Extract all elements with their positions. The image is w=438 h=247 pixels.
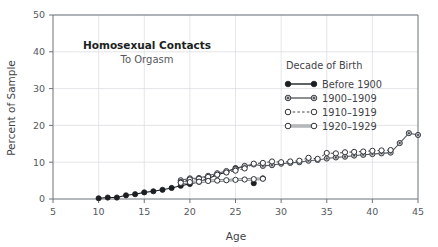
data-point [311, 81, 317, 87]
x-axis-label: Age [226, 230, 246, 242]
scatter-plot: 0102030405051015202530354045 Age Percent… [0, 0, 438, 247]
data-point [324, 150, 329, 155]
data-point [388, 147, 393, 152]
x-tick-label: 25 [229, 206, 241, 217]
data-point [251, 177, 256, 182]
legend-label: 1920–1929 [322, 121, 377, 132]
data-point [285, 123, 291, 129]
y-tick-label: 0 [39, 193, 45, 204]
data-point [114, 195, 119, 200]
data-point [215, 172, 220, 177]
y-tick-label: 50 [33, 9, 45, 20]
data-point [342, 150, 347, 155]
data-point-center [344, 156, 346, 158]
data-point [242, 166, 247, 171]
x-tick-label: 10 [93, 206, 105, 217]
data-point [311, 109, 317, 115]
data-point [187, 179, 192, 184]
data-point-center [417, 134, 419, 136]
data-point [379, 148, 384, 153]
data-point [251, 161, 256, 166]
data-point-center [326, 158, 328, 160]
data-point-center [287, 97, 289, 99]
data-point [160, 187, 165, 192]
data-point [285, 109, 291, 115]
data-point [311, 123, 317, 129]
data-point [133, 192, 138, 197]
data-point-center [335, 156, 337, 158]
legend-label: 1910–1919 [322, 107, 377, 118]
data-point [306, 155, 311, 160]
x-tick-label: 45 [412, 206, 424, 217]
x-tick-label: 5 [50, 206, 56, 217]
data-point-center [408, 132, 410, 134]
data-point [206, 178, 211, 183]
y-tick-label: 30 [33, 83, 45, 94]
data-point [361, 149, 366, 154]
data-point [142, 190, 147, 195]
data-point [333, 151, 338, 156]
data-point [224, 178, 229, 183]
y-tick-label: 10 [33, 157, 45, 168]
chart-container: 0102030405051015202530354045 Age Percent… [0, 0, 438, 247]
data-point [288, 159, 293, 164]
legend-label: 1900–1909 [322, 93, 377, 104]
data-point [269, 159, 274, 164]
data-point [260, 160, 265, 165]
data-point [178, 180, 183, 185]
data-point [279, 160, 284, 165]
x-tick-label: 40 [366, 206, 378, 217]
y-tick-label: 20 [33, 120, 45, 131]
legend-title: Decade of Birth [286, 60, 362, 71]
legend-label: Before 1900 [322, 79, 382, 90]
chart-subtitle: To Orgasm [120, 54, 174, 65]
data-point [123, 193, 128, 198]
x-tick-label: 30 [275, 206, 287, 217]
data-point [297, 158, 302, 163]
data-point [96, 196, 101, 201]
data-point [151, 189, 156, 194]
y-tick-label: 40 [33, 46, 45, 57]
data-point [242, 177, 247, 182]
data-point-center [399, 142, 401, 144]
data-point-center [313, 97, 315, 99]
x-tick-label: 15 [138, 206, 150, 217]
data-point [370, 148, 375, 153]
chart-title: Homosexual Contacts [83, 39, 211, 51]
data-point [196, 179, 201, 184]
x-tick-label: 20 [184, 206, 196, 217]
data-point [315, 156, 320, 161]
data-point [105, 195, 110, 200]
x-tick-label: 35 [321, 206, 333, 217]
data-point [233, 168, 238, 173]
y-axis-label: Percent of Sample [5, 60, 17, 156]
data-point [215, 178, 220, 183]
data-point [260, 176, 265, 181]
data-point [233, 177, 238, 182]
data-point [352, 149, 357, 154]
data-point [224, 170, 229, 175]
data-point [285, 81, 291, 87]
data-point [169, 185, 174, 190]
